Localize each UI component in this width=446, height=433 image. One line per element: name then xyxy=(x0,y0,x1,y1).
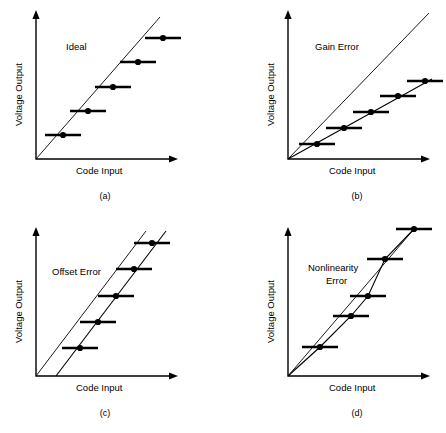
ideal-line xyxy=(36,231,146,376)
step-markers xyxy=(62,240,170,351)
y-axis-label: Voltage Output xyxy=(13,63,24,126)
ideal-line xyxy=(288,229,414,376)
ideal-line xyxy=(288,13,429,159)
x-axis-arrow-icon xyxy=(169,372,178,379)
panel-offset-error: Offset Error Code Input Voltage Output (… xyxy=(0,217,223,433)
y-axis-label: Voltage Output xyxy=(13,280,24,343)
y-axis-label: Voltage Output xyxy=(265,63,276,126)
x-axis-label: Code Input xyxy=(76,165,123,176)
x-axis-label: Code Input xyxy=(76,382,123,393)
panel-caption: (a) xyxy=(100,191,111,201)
step-markers xyxy=(302,226,432,350)
x-axis-label: Code Input xyxy=(329,165,376,176)
step-markers xyxy=(299,78,443,147)
panel-title: Ideal xyxy=(66,41,87,52)
x-axis-arrow-icon xyxy=(421,372,430,379)
x-axis-arrow-icon xyxy=(169,155,178,162)
x-axis-label: Code Input xyxy=(329,382,376,393)
figure-root: Ideal Code Input Voltage Output (a) xyxy=(0,0,446,433)
actual-line xyxy=(288,79,432,159)
panel-title: Nonlinearity xyxy=(308,262,358,273)
axis-lines xyxy=(288,233,424,376)
panel-caption: (c) xyxy=(100,408,111,418)
panel-caption: (d) xyxy=(352,408,363,418)
panel-title: Offset Error xyxy=(52,266,101,277)
panel-title-line2: Error xyxy=(326,275,347,286)
panel-ideal: Ideal Code Input Voltage Output (a) xyxy=(0,0,223,216)
y-axis-arrow-icon xyxy=(32,227,39,236)
x-axis-arrow-icon xyxy=(421,155,430,162)
axis-lines xyxy=(36,233,172,376)
panel-c-plot: Offset Error Code Input Voltage Output (… xyxy=(0,217,223,433)
panel-a-plot: Ideal Code Input Voltage Output (a) xyxy=(0,0,223,216)
panel-caption: (b) xyxy=(352,191,363,201)
panel-gain-error: Gain Error Code Input Voltage Output (b) xyxy=(223,0,446,216)
panel-nonlinearity-error: Nonlinearity Error Code Input Voltage Ou… xyxy=(223,217,446,433)
actual-line xyxy=(56,231,166,376)
y-axis-arrow-icon xyxy=(32,10,39,19)
y-axis-arrow-icon xyxy=(284,10,291,19)
y-axis-arrow-icon xyxy=(284,227,291,236)
y-axis-label: Voltage Output xyxy=(265,280,276,343)
panel-b-plot: Gain Error Code Input Voltage Output (b) xyxy=(223,0,446,216)
panel-title: Gain Error xyxy=(315,41,359,52)
panel-d-plot: Nonlinearity Error Code Input Voltage Ou… xyxy=(223,217,446,433)
